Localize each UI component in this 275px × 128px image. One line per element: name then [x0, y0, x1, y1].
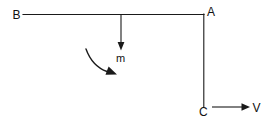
- label-velocity-v: V: [253, 101, 261, 115]
- arrowhead-right-icon: [242, 103, 251, 110]
- label-point-b: B: [13, 8, 21, 22]
- label-point-a: A: [207, 5, 215, 19]
- label-mass-m: m: [116, 52, 125, 64]
- physics-diagram: B A C m V: [0, 0, 275, 128]
- rotation-curved-shaft: [86, 49, 107, 72]
- diagram-canvas: B A C m V: [0, 0, 275, 128]
- arrowhead-down-icon: [118, 42, 125, 51]
- arrowhead-curve-icon: [106, 67, 118, 75]
- label-point-c: C: [199, 105, 208, 119]
